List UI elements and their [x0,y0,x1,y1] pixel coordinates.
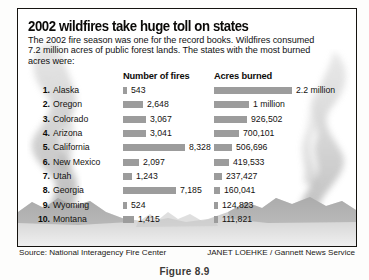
figure-caption: Figure 8.9 [0,266,369,277]
bar-number-of-fires [123,202,127,209]
table-row: 10.Montana1,415111,821 [18,214,356,228]
bar-acres-burned [214,116,247,123]
value-number-of-fires: 1,415 [138,214,160,225]
table-row: 9.Wyoming524124,823 [18,200,356,214]
row-rank: 6. [30,157,50,168]
bar-acres-burned [214,144,232,151]
value-acres-burned: 419,533 [233,157,264,168]
value-number-of-fires: 524 [131,200,146,211]
bar-acres-burned [214,216,218,223]
bar-number-of-fires [123,130,146,137]
table-row: 5.California8,328506,696 [18,142,356,156]
bar-number-of-fires [123,101,143,108]
bar-number-of-fires [123,216,134,223]
table-row: 6.New Mexico2,097419,533 [18,157,356,171]
row-rank: 4. [30,128,50,139]
chart-panel: 2002 wildfires take huge toll on states … [17,8,357,247]
table-row: 4.Arizona3,041700,101 [18,128,356,142]
credit-note: JANET LOEHKE / Gannett News Service [207,248,355,257]
row-rank: 10. [30,214,50,225]
row-state-name: Wyoming [53,200,89,211]
value-number-of-fires: 2,648 [147,99,169,110]
value-acres-burned: 237,427 [226,171,257,182]
bar-acres-burned [214,159,229,166]
bar-acres-burned [214,202,218,209]
value-number-of-fires: 1,243 [136,171,158,182]
value-number-of-fires: 8,328 [189,142,211,153]
row-state-name: California [53,142,90,153]
source-note: Source: National Interagency Fire Center [19,248,166,257]
value-acres-burned: 1 million [253,99,285,110]
row-rank: 7. [30,171,50,182]
value-number-of-fires: 3,067 [150,114,172,125]
row-state-name: Georgia [53,185,84,196]
row-rank: 3. [30,114,50,125]
infographic-page: 2002 wildfires take huge toll on states … [0,0,369,280]
table-row: 8.Georgia7,185160,041 [18,185,356,199]
row-state-name: Alaska [53,85,79,96]
value-acres-burned: 506,696 [236,142,267,153]
value-number-of-fires: 2,097 [143,157,165,168]
table-row: 2.Oregon2,6481 million [18,99,356,113]
value-acres-burned: 700,101 [243,128,274,139]
row-state-name: Colorado [53,114,88,125]
data-rows: 1.Alaska5432.2 million2.Oregon2,6481 mil… [18,9,356,246]
row-rank: 1. [30,85,50,96]
value-number-of-fires: 7,185 [180,185,202,196]
row-state-name: Montana [53,214,87,225]
bar-number-of-fires [123,116,146,123]
value-acres-burned: 160,041 [224,185,255,196]
value-number-of-fires: 543 [131,85,146,96]
bar-number-of-fires [123,187,176,194]
table-row: 3.Colorado3,067926,502 [18,114,356,128]
bar-number-of-fires [123,144,185,151]
bar-number-of-fires [123,173,132,180]
row-state-name: Arizona [53,128,82,139]
value-acres-burned: 111,821 [222,214,252,225]
bar-acres-burned [214,187,220,194]
row-state-name: New Mexico [53,157,100,168]
row-state-name: Utah [53,171,71,182]
row-state-name: Oregon [53,99,82,110]
row-rank: 2. [30,99,50,110]
bar-acres-burned [214,87,292,94]
row-rank: 9. [30,200,50,211]
bar-acres-burned [214,101,249,108]
value-acres-burned: 124,823 [222,200,253,211]
bar-number-of-fires [123,87,127,94]
bar-acres-burned [214,173,222,180]
value-acres-burned: 926,502 [251,114,282,125]
bar-acres-burned [214,130,239,137]
bar-number-of-fires [123,159,139,166]
row-rank: 8. [30,185,50,196]
table-row: 1.Alaska5432.2 million [18,85,356,99]
table-row: 7.Utah1,243237,427 [18,171,356,185]
value-number-of-fires: 3,041 [150,128,172,139]
value-acres-burned: 2.2 million [296,85,335,96]
row-rank: 5. [30,142,50,153]
